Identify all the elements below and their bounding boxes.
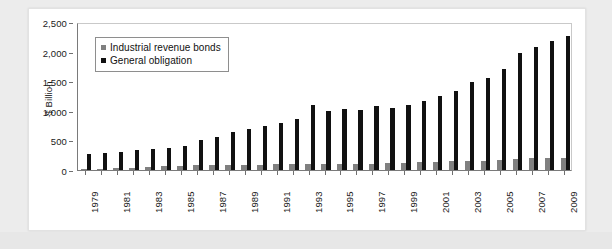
bar-general-obligation [374,106,378,170]
bar-general-obligation [247,129,251,170]
x-tick-mark [356,171,357,175]
x-tick-label: 1991 [281,191,292,213]
bar-general-obligation [342,109,346,170]
x-tick-mark [436,171,437,175]
bar-group [349,24,365,170]
x-tick-mark [165,171,166,175]
y-tick-label: 500 [51,136,67,147]
x-tick-mark [149,171,150,175]
legend-label: General obligation [110,54,192,67]
x-tick-label: 1989 [249,191,260,213]
bar-group [302,24,318,170]
x-tick-mark [261,171,262,175]
bar-group [445,24,461,170]
caption-band [0,232,612,249]
x-tick-mark [181,171,182,175]
bar-general-obligation [358,110,362,170]
x-tick-mark [484,171,485,175]
x-tick-label: 2009 [568,191,579,213]
x-tick-label: 1997 [376,191,387,213]
x-tick-label: 1995 [344,191,355,213]
y-tick-label: 1,000 [43,106,67,117]
y-tick-label: 1,500 [43,77,67,88]
y-tick-label: 2,500 [43,18,67,29]
bar-general-obligation [295,119,299,171]
x-tick-mark [325,171,326,175]
bar-group [78,24,94,170]
y-axis-tick-labels: 05001,0001,5002,0002,500 [29,9,73,230]
bar-general-obligation [406,105,410,170]
bar-general-obligation [550,41,554,170]
x-tick-mark [564,171,565,175]
x-tick-mark [420,171,421,175]
x-tick-mark [213,171,214,175]
x-tick-label: 2003 [472,191,483,213]
y-tick-label: 0 [62,166,67,177]
x-tick-label: 2005 [504,191,515,213]
x-tick-mark [229,171,230,175]
bar-general-obligation [119,152,123,170]
x-tick-mark [340,171,341,175]
x-tick-mark [532,171,533,175]
legend-swatch-icon [101,58,106,63]
legend-item: Industrial revenue bonds [101,41,221,54]
bar-general-obligation [326,111,330,170]
legend-label: Industrial revenue bonds [110,41,221,54]
bar-general-obligation [518,53,522,170]
x-tick-label: 1985 [185,191,196,213]
y-tick-mark [69,82,73,83]
x-tick-mark [548,171,549,175]
bar-chart: $ Billion 05001,0001,5002,0002,500 Indus… [29,9,585,230]
bar-general-obligation [311,105,315,170]
x-tick-mark [85,171,86,175]
bar-general-obligation [215,137,219,170]
x-tick-label: 1983 [153,191,164,213]
y-tick-mark [69,171,73,172]
figure-frame: $ Billion 05001,0001,5002,0002,500 Indus… [0,0,612,249]
x-tick-mark [516,171,517,175]
x-tick-mark [293,171,294,175]
x-tick-mark [117,171,118,175]
bar-general-obligation [135,150,139,170]
bar-group [461,24,477,170]
y-tick-label: 2,000 [43,47,67,58]
legend-swatch-icon [101,45,106,50]
bar-group [381,24,397,170]
x-tick-mark [500,171,501,175]
bar-general-obligation [167,148,171,170]
y-tick-mark [69,141,73,142]
bar-general-obligation [454,91,458,170]
x-axis-tick-labels: 1979198119831985198719891991199319951997… [77,177,572,221]
bar-general-obligation [470,82,474,170]
bar-group [477,24,493,170]
bar-general-obligation [183,146,187,170]
bar-group [429,24,445,170]
x-axis-tick-marks [77,171,572,176]
x-tick-mark [133,171,134,175]
bar-group [270,24,286,170]
bar-group [557,24,573,170]
bar-group [413,24,429,170]
bar-group [238,24,254,170]
x-tick-label: 1981 [121,191,132,213]
bar-group [286,24,302,170]
bar-general-obligation [87,154,91,170]
bar-general-obligation [422,101,426,170]
x-tick-label: 2001 [440,191,451,213]
x-tick-mark [309,171,310,175]
legend-item: General obligation [101,54,221,67]
x-tick-label: 2007 [536,191,547,213]
chart-card: $ Billion 05001,0001,5002,0002,500 Indus… [28,8,586,231]
x-tick-mark [197,171,198,175]
bar-group [397,24,413,170]
bar-general-obligation [566,36,570,170]
bar-general-obligation [486,78,490,170]
bar-general-obligation [502,69,506,170]
x-tick-mark [404,171,405,175]
bar-general-obligation [199,140,203,170]
bar-general-obligation [390,108,394,170]
bar-group [365,24,381,170]
x-tick-mark [372,171,373,175]
x-tick-mark [468,171,469,175]
x-tick-label: 1987 [217,191,228,213]
